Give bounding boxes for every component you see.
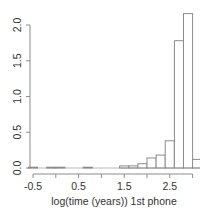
histogram-bar (120, 166, 129, 168)
y-tick-label: 0.5 (11, 125, 23, 140)
y-tick-label: 1.0 (11, 89, 23, 104)
histogram-chart: 0.00.51.01.52.0 -0.50.51.52.5 log(time (… (0, 0, 200, 217)
histogram-bar (156, 155, 165, 168)
histogram-bar (193, 159, 200, 168)
histogram-bar (165, 141, 174, 168)
x-tick-label: 1.5 (117, 180, 132, 192)
x-axis: -0.50.51.52.5 (24, 174, 193, 192)
x-axis-label: log(time (years)) 1st phone (51, 195, 177, 207)
histogram-bars (28, 14, 200, 168)
x-tick-label: 2.5 (162, 180, 177, 192)
y-tick-label: 2.0 (11, 18, 23, 33)
histogram-bar (129, 166, 138, 168)
y-axis: 0.00.51.01.52.0 (11, 18, 30, 176)
histogram-bar (147, 158, 156, 168)
y-tick-label: 0.0 (11, 161, 23, 176)
histogram-bar (174, 41, 183, 168)
histogram-bar (184, 14, 193, 168)
histogram-bar (138, 164, 147, 168)
x-tick-label: 0.5 (71, 180, 86, 192)
y-tick-label: 1.5 (11, 53, 23, 68)
x-tick-label: -0.5 (24, 180, 42, 192)
